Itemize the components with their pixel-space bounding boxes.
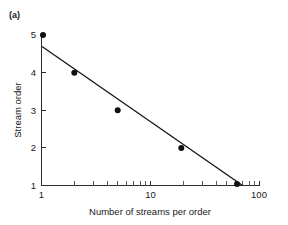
y-tick-label-3: 3 [31, 105, 36, 116]
x-axis-minor-ticks [74, 181, 254, 186]
data-point-4 [178, 145, 184, 151]
data-point-1 [40, 32, 46, 38]
y-tick-label-4: 4 [31, 67, 36, 78]
x-axis-title: Number of streams per order [89, 206, 211, 217]
x-tick-label-10: 10 [145, 189, 156, 200]
x-tick-label-1: 1 [39, 189, 44, 200]
y-axis-ticks [42, 35, 47, 185]
x-tick-label-100: 100 [251, 189, 267, 200]
axis-lines [41, 35, 260, 186]
stream-order-scatter-plot: 1 2 3 4 5 1 10 100 Number of streams per… [0, 0, 288, 225]
y-tick-label-2: 2 [31, 142, 36, 153]
y-tick-label-1: 1 [31, 180, 36, 191]
y-axis-title: Stream order [12, 82, 23, 137]
regression-line [42, 46, 243, 185]
y-tick-label-5: 5 [31, 29, 36, 40]
data-points [40, 32, 240, 187]
data-point-5 [234, 181, 240, 187]
figure-panel: (a) [0, 0, 288, 225]
data-point-2 [71, 70, 77, 76]
data-point-3 [115, 107, 121, 113]
